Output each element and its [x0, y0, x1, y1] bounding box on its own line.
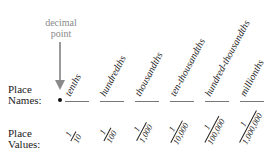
arrow-shaft	[59, 42, 61, 82]
place-value-hundredths: 1 100	[96, 124, 120, 146]
denominator: 1,000,000	[239, 110, 265, 146]
place-value-millionths: 1 1,000,000	[231, 106, 265, 147]
place-value-hundred-thousandths: 1 100,000	[196, 112, 227, 147]
underline-millionths	[240, 101, 264, 102]
arrow-down-icon	[55, 80, 65, 90]
underline-hundred-thousandths	[205, 101, 229, 102]
decimal-point-dot	[58, 98, 62, 102]
place-value-thousandths: 1 1,000	[128, 118, 155, 146]
place-values-label: Place Values:	[8, 128, 40, 150]
denominator: 1,000	[136, 122, 155, 145]
decimal-point-label: decimal point	[38, 17, 84, 39]
place-name-ten-thousandths: ten-thousandths	[168, 37, 207, 98]
place-name-millionths: millionths	[238, 58, 266, 98]
place-value-ten-thousandths: 1 10,000	[162, 116, 191, 147]
place-name-thousandths: thousandths	[133, 51, 165, 98]
denominator: 100,000	[204, 116, 227, 147]
place-name-hundredths: hundredths	[98, 54, 128, 98]
place-names-label-line2: Names:	[8, 95, 42, 106]
place-name-tenths: tenths	[63, 72, 83, 98]
underline-hundredths	[100, 101, 124, 102]
place-values-label-line2: Values:	[8, 139, 40, 150]
decimal-point-label-line1: decimal	[38, 17, 84, 28]
underline-thousandths	[135, 101, 159, 102]
place-value-tenths: 1 10	[62, 127, 84, 145]
underline-tenths	[65, 101, 89, 102]
place-names-label: Place Names:	[8, 84, 42, 106]
underline-ten-thousandths	[170, 101, 194, 102]
decimal-point-label-line2: point	[38, 28, 84, 39]
